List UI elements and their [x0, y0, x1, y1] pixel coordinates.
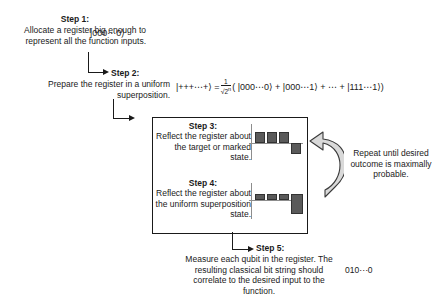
arrowhead-icon: [103, 69, 109, 75]
step-3-title: Step 3:: [155, 121, 251, 131]
arrowhead-icon: [129, 115, 135, 121]
connector-step1-step2-vertical: [88, 52, 89, 73]
formula-denominator: √2n: [221, 85, 232, 95]
step-2-description: Prepare the register in a uniform superp…: [10, 79, 170, 100]
connector-box-step5-horizontal: [232, 249, 249, 250]
connector-step2-box-horizontal: [113, 118, 130, 119]
bar: [255, 194, 265, 200]
grover-iteration-box: Step 3: Reflect the register about the t…: [152, 117, 308, 234]
connector-box-step5-vertical: [232, 232, 233, 250]
step-1-title: Step 1:: [0, 14, 150, 24]
bar: [267, 132, 277, 143]
step-4-text-block: Step 4: Reflect the register about the u…: [155, 178, 251, 220]
chart-y-axis: [251, 124, 252, 160]
formula-rhs: ( |000⋯0⟩ + |000⋯1⟩ + ⋯ + |111⋯1⟩): [232, 82, 384, 92]
bar: [291, 194, 303, 214]
formula-den-exponent: n: [228, 86, 231, 92]
measured-bitstring: 010⋯0: [345, 265, 372, 276]
step-5-title: Step 5:: [256, 243, 284, 253]
step-1-block: Step 1: Allocate a register big enough t…: [0, 14, 150, 46]
formula-lhs: |+++⋯+⟩ =: [176, 82, 220, 92]
step-4-panel: Step 4: Reflect the register about the u…: [153, 175, 307, 232]
step-5-description: Measure each qubit in the register. The …: [180, 254, 338, 296]
bar: [255, 132, 265, 143]
step-3-amplitude-chart: [249, 122, 305, 172]
bar: [279, 194, 289, 200]
connector-step1-step2-horizontal: [88, 72, 104, 73]
grover-algorithm-diagram: { "diagram": { "title": "Grover search a…: [0, 0, 440, 302]
bar: [267, 194, 277, 200]
step-4-description: Reflect the register about the uniform s…: [155, 188, 251, 220]
formula-fraction: 1√2n: [221, 78, 232, 95]
step-4-amplitude-chart: [249, 179, 305, 229]
bar: [291, 143, 301, 154]
step-3-panel: Step 3: Reflect the register about the t…: [153, 118, 307, 175]
step-3-description: Reflect the register about the target or…: [155, 131, 251, 163]
connector-step2-box-vertical: [113, 99, 114, 119]
initial-state-ket: |000⋯0⟩: [90, 28, 125, 39]
repeat-loop-arrow-icon: [306, 127, 344, 203]
step-2-title: Step 2:: [111, 68, 139, 78]
step-1-description: Allocate a register big enough to repres…: [0, 25, 150, 46]
step-4-title: Step 4:: [155, 178, 251, 188]
bar: [279, 132, 289, 143]
uniform-superposition-formula: |+++⋯+⟩ =1√2n( |000⋯0⟩ + |000⋯1⟩ + ⋯ + |…: [176, 79, 384, 96]
repeat-instruction-text: Repeat until desired outcome is maximall…: [345, 148, 437, 180]
step-3-text-block: Step 3: Reflect the register about the t…: [155, 121, 251, 163]
arrowhead-icon: [248, 246, 254, 252]
formula-numerator: 1: [221, 78, 232, 85]
